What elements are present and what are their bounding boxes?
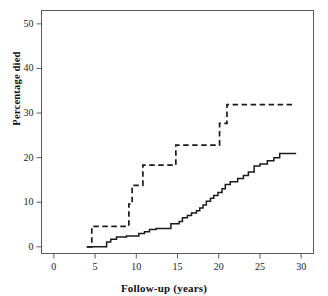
x-axis-ticks bbox=[54, 254, 301, 259]
x-axis-title: Follow-up (years) bbox=[0, 282, 328, 294]
x-tick-label: 30 bbox=[296, 262, 306, 272]
y-tick-label: 50 bbox=[8, 19, 34, 29]
y-tick-label: 10 bbox=[8, 197, 34, 207]
series-dashed-group bbox=[87, 105, 295, 247]
y-tick-label: 20 bbox=[8, 153, 34, 163]
x-tick-label: 15 bbox=[173, 262, 183, 272]
chart-figure: 01020304050 051015202530 Percentage died… bbox=[0, 0, 328, 296]
x-tick-label: 0 bbox=[51, 262, 56, 272]
data-series-layer bbox=[87, 105, 296, 247]
axes-frame bbox=[42, 11, 314, 254]
x-tick-label: 20 bbox=[214, 262, 224, 272]
x-tick-label: 10 bbox=[131, 262, 141, 272]
y-tick-label: 0 bbox=[8, 242, 34, 252]
x-tick-label: 25 bbox=[255, 262, 265, 272]
y-axis-ticks bbox=[37, 24, 42, 247]
y-axis-title: Percentage died bbox=[11, 29, 22, 149]
x-tick-label: 5 bbox=[93, 262, 98, 272]
survival-curve-plot bbox=[0, 0, 328, 296]
series-solid-group bbox=[87, 154, 296, 247]
